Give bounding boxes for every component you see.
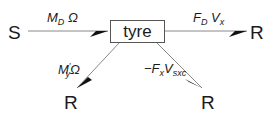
- arrowhead-icon: [229, 31, 247, 37]
- edge-label-fd-vx: FD Vx: [193, 11, 224, 27]
- node-tyre: tyre: [110, 20, 165, 43]
- edge-tyre-r-bottom-left: [77, 42, 120, 88]
- diagram-edges: [0, 0, 278, 117]
- edge-label-fx-vsxc: −FxVsxc: [144, 62, 186, 78]
- arrowhead-icon: [185, 79, 202, 88]
- node-sink-r-bottom-left: R: [64, 93, 78, 112]
- node-sink-r-bottom-right: R: [201, 93, 215, 112]
- edge-label-md-omega: MD Ω: [47, 11, 78, 27]
- node-source-s: S: [8, 23, 21, 42]
- node-sink-r-right: R: [250, 23, 264, 42]
- arrowhead-icon: [90, 31, 108, 37]
- edge-label-my-omega: M′yΩ: [58, 62, 80, 79]
